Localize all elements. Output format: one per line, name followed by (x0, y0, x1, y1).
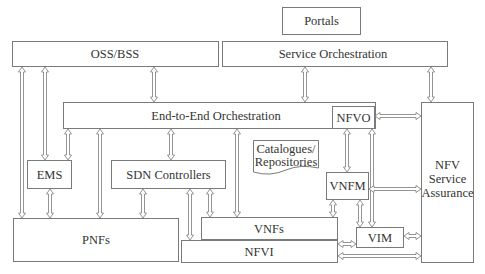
e2e-orchestration-box: End-to-End Orchestration (64, 103, 376, 129)
nfv-sa-label-line1: NFV (435, 158, 460, 172)
service-orchestration-box: Service Orchestration (223, 42, 448, 67)
arrow-e2e-sdn (168, 129, 175, 160)
portals-label: Portals (304, 14, 339, 28)
arrow-vnfm-vim (357, 200, 364, 227)
catalogues-label-line1: Catalogues/ (256, 142, 316, 156)
catalogues-document-shape: Catalogues/ Repositories (254, 141, 319, 175)
vertical-arrows (19, 67, 435, 240)
arrow-e2e-vnfs (234, 129, 241, 217)
arrow-so-sa (428, 67, 435, 102)
nfv-sa-label-line3: Assurance (421, 186, 474, 200)
nfvo-box: NFVO (333, 107, 375, 129)
service-orchestration-label: Service Orchestration (279, 47, 388, 61)
vim-label: VIM (368, 231, 392, 245)
ems-label: EMS (37, 168, 63, 182)
arrow-e2e-pnfs (97, 129, 104, 218)
pnfs-label: PNFs (82, 233, 110, 247)
oss-bss-box: OSS/BSS (13, 42, 219, 67)
arrow-oss-pnfs (19, 67, 26, 218)
arrow-oss-ems (42, 67, 49, 160)
arrow-nfvi-vim (338, 241, 356, 248)
arrow-vnfm-sa (369, 186, 421, 193)
arrow-e2e-ems (65, 129, 72, 160)
pnfs-box: PNFs (14, 219, 179, 262)
arrow-nfvo-vnfm (344, 129, 351, 172)
catalogues-label-line2: Repositories (255, 155, 318, 169)
sdn-controllers-box: SDN Controllers (112, 161, 226, 189)
arrow-nfvo-sa (375, 113, 421, 120)
vim-box: VIM (357, 228, 404, 248)
vnfm-box: VNFM (327, 173, 369, 200)
nfv-sa-label-line2: Service (429, 172, 467, 186)
nfvi-box: NFVI (182, 241, 338, 263)
arrow-so-e2e (302, 67, 309, 102)
portals-box: Portals (283, 8, 361, 35)
vnfs-box: VNFs (202, 218, 338, 240)
arrow-ems-pnfs (47, 189, 54, 218)
nfvi-label: NFVI (244, 245, 273, 259)
oss-bss-label: OSS/BSS (91, 47, 140, 61)
ems-box: EMS (28, 161, 72, 189)
nfvo-label: NFVO (336, 111, 370, 125)
arrow-nfvi-sa (338, 253, 421, 260)
arrow-nfvo-vim (369, 129, 376, 227)
arrow-sdn-vnfs (207, 189, 214, 217)
nfv-architecture-diagram: Portals OSS/BSS Service Orchestration En… (0, 0, 485, 274)
nfv-service-assurance-box: NFV Service Assurance (421, 103, 474, 263)
arrow-sdn-nfvi (187, 189, 194, 240)
arrow-sdn-pnfs (140, 189, 147, 218)
arrow-vnfm-vnfs (330, 200, 337, 217)
vnfs-label: VNFs (254, 222, 284, 236)
arrow-vim-sa (404, 233, 421, 240)
vnfm-label: VNFM (329, 179, 365, 193)
sdn-controllers-label: SDN Controllers (126, 168, 211, 182)
e2e-orchestration-label: End-to-End Orchestration (151, 109, 281, 123)
arrow-oss-e2e (151, 67, 158, 102)
